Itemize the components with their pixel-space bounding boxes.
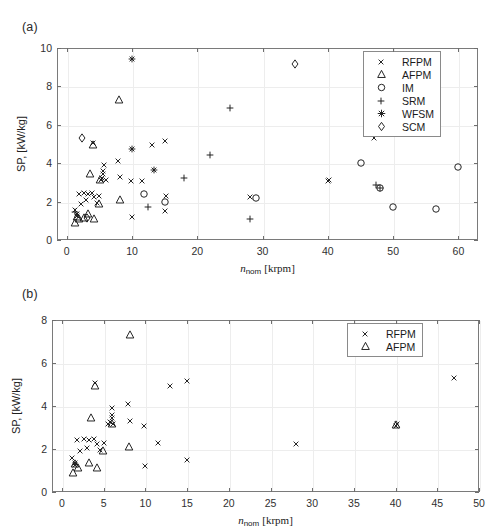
x-tick <box>145 488 146 492</box>
y-tick-right <box>475 406 479 407</box>
panel-a-label: (a) <box>22 20 38 34</box>
x-tick-top <box>312 320 313 324</box>
x-tick <box>437 488 438 492</box>
y-tick-right <box>474 163 478 164</box>
x-tick <box>354 488 355 492</box>
x-tick <box>263 236 264 240</box>
x-tick-label: 40 <box>390 497 402 509</box>
legend-item-scm[interactable]: SCM <box>368 120 434 133</box>
legend-item-afpm[interactable]: AFPM <box>368 68 434 81</box>
gridline-vertical <box>188 321 189 491</box>
x-tick-top <box>229 320 230 324</box>
x-tick <box>396 488 397 492</box>
y-tick <box>52 320 56 321</box>
gridline-vertical <box>329 49 330 239</box>
x-tick-top <box>458 48 459 52</box>
y-tick-right <box>475 449 479 450</box>
y-tick-right <box>475 363 479 364</box>
diamond-marker <box>368 122 394 131</box>
x-tick-top <box>354 320 355 324</box>
x-tick-top <box>187 320 188 324</box>
y-tick-label: 2 <box>26 443 47 455</box>
x-tick-label: 30 <box>257 245 269 257</box>
y-tick <box>52 492 56 493</box>
x-tick <box>104 488 105 492</box>
x-tick-top <box>104 320 105 324</box>
gridline-vertical <box>146 321 147 491</box>
x-tick-label: 5 <box>101 497 107 509</box>
x-tick-top <box>328 48 329 52</box>
gridline-vertical <box>480 321 481 491</box>
y-tick <box>57 240 61 241</box>
panel-a: (a) <box>0 0 493 285</box>
legend-item-rfpm[interactable]: RFPM <box>352 327 416 340</box>
y-axis-title: SP, [kW/kg] <box>10 378 22 434</box>
y-tick-label: 4 <box>26 400 47 412</box>
x-marker <box>368 58 394 66</box>
gridline-vertical <box>105 321 106 491</box>
y-tick <box>57 48 61 49</box>
x-marker <box>352 330 378 338</box>
x-tick-label: 25 <box>265 497 277 509</box>
gridline-vertical <box>63 321 64 491</box>
x-axis-title: nnom [krpm] <box>240 262 295 274</box>
y-tick-label: 0 <box>26 486 47 498</box>
y-tick-label: 4 <box>31 157 52 169</box>
asterisk-marker <box>368 109 394 118</box>
y-tick <box>57 163 61 164</box>
x-tick-label: 60 <box>453 245 465 257</box>
x-tick-top <box>145 320 146 324</box>
gridline-vertical <box>459 49 460 239</box>
x-tick <box>393 236 394 240</box>
x-tick-top <box>437 320 438 324</box>
x-tick-top <box>396 320 397 324</box>
x-tick <box>132 236 133 240</box>
x-tick-label: 30 <box>306 497 318 509</box>
x-tick-label: 40 <box>322 245 334 257</box>
x-tick-label: 0 <box>59 497 65 509</box>
gridline-vertical <box>68 49 69 239</box>
x-axis-title: nnom [krpm] <box>238 514 293 526</box>
legend-label: RFPM <box>394 56 432 68</box>
legend-item-rfpm[interactable]: RFPM <box>368 55 434 68</box>
x-tick <box>229 488 230 492</box>
y-tick <box>57 202 61 203</box>
legend-item-afpm[interactable]: AFPM <box>352 340 416 353</box>
x-tick <box>197 236 198 240</box>
legend-label: SCM <box>394 121 425 133</box>
y-tick <box>52 363 56 364</box>
y-tick-right <box>474 48 478 49</box>
x-tick-top <box>479 320 480 324</box>
legend-item-im[interactable]: IM <box>368 81 434 94</box>
y-tick-label: 6 <box>31 119 52 131</box>
y-tick-right <box>474 86 478 87</box>
legend-label: AFPM <box>378 341 415 353</box>
x-tick <box>479 488 480 492</box>
x-tick-label: 35 <box>348 497 360 509</box>
y-tick-label: 0 <box>31 234 52 246</box>
y-tick-label: 6 <box>26 357 47 369</box>
y-tick-label: 2 <box>31 196 52 208</box>
gridline-horizontal <box>53 450 478 451</box>
x-tick-label: 20 <box>223 497 235 509</box>
gridline-vertical <box>133 49 134 239</box>
x-tick-top <box>132 48 133 52</box>
x-tick-top <box>67 48 68 52</box>
x-tick-label: 15 <box>181 497 193 509</box>
circle-marker <box>368 83 394 92</box>
x-tick-label: 20 <box>191 245 203 257</box>
gridline-vertical <box>438 321 439 491</box>
legend-item-wfsm[interactable]: WFSM <box>368 107 434 120</box>
y-tick-right <box>474 202 478 203</box>
legend-item-srm[interactable]: SRM <box>368 94 434 107</box>
x-tick <box>62 488 63 492</box>
x-tick <box>187 488 188 492</box>
x-tick <box>271 488 272 492</box>
x-tick <box>458 236 459 240</box>
y-tick-label: 10 <box>31 42 52 54</box>
gridline-horizontal <box>58 203 477 204</box>
triangle-marker <box>368 70 394 79</box>
y-tick-right <box>475 320 479 321</box>
y-tick-right <box>475 492 479 493</box>
legend-label: SRM <box>394 95 425 107</box>
